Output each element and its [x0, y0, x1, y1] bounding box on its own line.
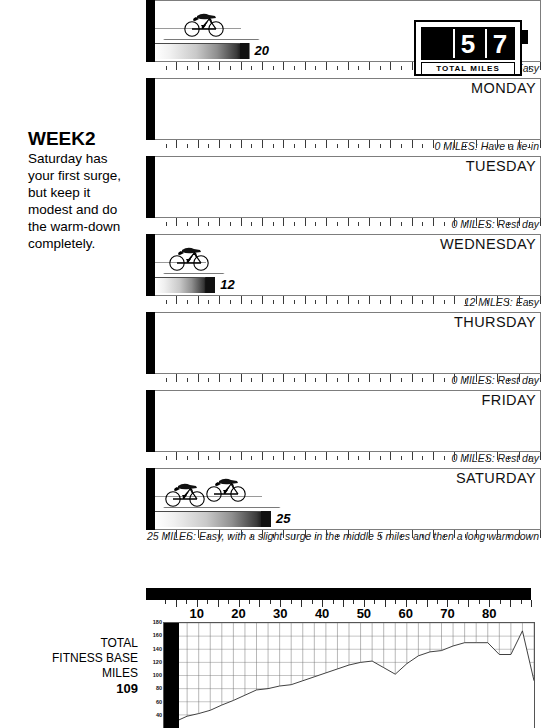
day-row[interactable]: THURSDAY0 MILES: Rest day	[146, 312, 541, 382]
week-title: WEEK2	[28, 128, 96, 150]
ramp-side	[205, 277, 215, 293]
row-start-marker	[146, 0, 155, 62]
cyclist-icon-wrap	[205, 473, 251, 507]
row-start-marker	[146, 312, 155, 374]
counter-label: TOTAL MILES	[421, 62, 515, 75]
day-row[interactable]: FRIDAY0 MILES: Rest day	[146, 390, 541, 460]
row-tick-marks	[155, 215, 541, 226]
day-row[interactable]: MONDAY0 MILES: Have a lie-in	[146, 78, 541, 148]
total-label-line3: MILES	[0, 666, 138, 681]
day-row[interactable]: WEDNESDAY12 12 MILES: Easy	[146, 234, 541, 304]
chart-y-tick-label: 120	[153, 659, 162, 665]
day-name-label: WEDNESDAY	[440, 236, 536, 252]
scale-number: 30	[273, 606, 287, 621]
scale-number: 70	[440, 606, 454, 621]
cyclist-icon-wrap	[168, 242, 214, 276]
row-start-marker	[146, 390, 155, 452]
chart-y-tick-label: 160	[153, 632, 162, 638]
total-label-line2: FITNESS BASE	[0, 651, 138, 666]
row-tick-marks	[155, 293, 541, 304]
cyclist-icon	[168, 242, 214, 272]
mileage-value: 25	[276, 511, 290, 526]
chart-y-tick-label: 80	[156, 685, 162, 691]
day-row[interactable]: SATURDAY25 25 MILES: Easy, with a slight…	[146, 468, 541, 538]
chart-left-block	[164, 623, 179, 728]
day-row[interactable]: TUESDAY0 MILES: Rest day	[146, 156, 541, 226]
chart-svg	[164, 623, 534, 728]
mileage-ramp	[155, 273, 215, 293]
cyclist-icon	[164, 478, 210, 508]
ramp-face	[155, 43, 241, 59]
scale-bar	[146, 588, 531, 600]
scale-number: 60	[398, 606, 412, 621]
cyclist-icon-wrap	[164, 478, 210, 512]
chart-y-tick-label: 60	[156, 699, 162, 705]
ramp-face	[155, 277, 206, 293]
mileage-value: 20	[255, 43, 269, 58]
total-miles-counter: 5 7 TOTAL MILES	[414, 20, 522, 76]
chart-y-tick-label: 140	[153, 646, 162, 652]
ramp-side	[261, 511, 271, 527]
scale-number: 50	[357, 606, 371, 621]
chart-y-tick-label: 100	[153, 672, 162, 678]
cyclist-icon-wrap	[183, 8, 229, 42]
scale-number: 80	[482, 606, 496, 621]
row-start-marker	[146, 468, 155, 530]
chart-plot-area	[163, 622, 535, 728]
chart-y-tick-label: 40	[156, 712, 162, 718]
ramp-face	[155, 511, 262, 527]
row-tick-marks	[155, 371, 541, 382]
row-tick-marks	[155, 137, 541, 148]
cyclist-icon	[205, 473, 251, 503]
row-start-marker	[146, 156, 155, 218]
day-name-label: TUESDAY	[466, 158, 536, 174]
row-start-marker	[146, 234, 155, 296]
training-plan-page: WEEK2 Saturday has your first surge, but…	[0, 0, 541, 728]
counter-digit-blank	[423, 29, 449, 58]
week-description: Saturday has your first surge, but keep …	[28, 150, 132, 252]
row-tick-marks	[155, 449, 541, 460]
mileage-ramp	[155, 39, 250, 59]
scale-numbers: 1020304050607080	[146, 606, 531, 622]
total-fitness-base: TOTAL FITNESS BASE MILES 109	[0, 636, 138, 696]
chart-y-tick-label: 180	[153, 619, 162, 625]
scale-number: 20	[231, 606, 245, 621]
cyclist-icon	[183, 8, 229, 38]
total-label-line1: TOTAL	[0, 636, 138, 651]
chart-y-axis-labels: 406080100120140160180	[146, 622, 162, 728]
day-name-label: THURSDAY	[454, 314, 536, 330]
day-name-label: MONDAY	[471, 80, 536, 96]
ramp-side	[240, 43, 250, 59]
counter-digit-tens: 5	[453, 29, 481, 58]
row-tick-marks	[155, 527, 541, 538]
scale-number: 10	[190, 606, 204, 621]
total-miles-value: 109	[0, 681, 138, 696]
counter-digit-ones: 7	[485, 29, 513, 58]
sidebar: WEEK2 Saturday has your first surge, but…	[0, 0, 140, 728]
day-name-label: FRIDAY	[482, 392, 537, 408]
mileage-scale: 1020304050607080	[146, 588, 541, 622]
row-start-marker	[146, 78, 155, 140]
day-rows: 20 20 MILES: EasyMONDAY0 MILES: Have a l…	[146, 0, 541, 546]
mileage-value: 12	[220, 277, 234, 292]
fitness-base-chart: 406080100120140160180	[146, 622, 535, 728]
day-name-label: SATURDAY	[456, 470, 536, 486]
scale-number: 40	[315, 606, 329, 621]
